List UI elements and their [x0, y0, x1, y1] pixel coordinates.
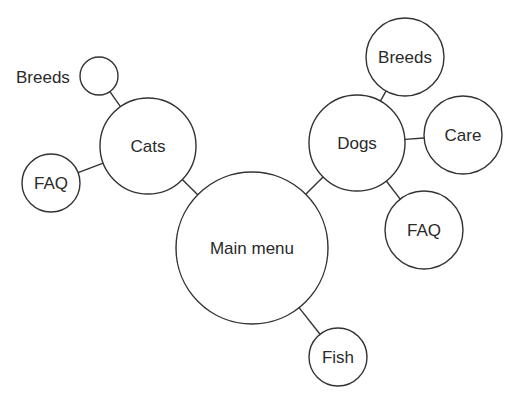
edge-main-dogs: [306, 177, 323, 194]
node-label-cats: Cats: [131, 137, 166, 156]
node-cats-breeds: [80, 57, 118, 95]
external-label-cats-breeds: Breeds: [16, 68, 70, 87]
node-label-main: Main menu: [210, 239, 294, 258]
node-label-dogs-breeds: Breeds: [378, 48, 432, 67]
site-map-diagram: Main menuCatsFAQDogsBreedsCareFAQFishBre…: [0, 0, 510, 400]
edge-cats-cats-faq: [78, 163, 103, 173]
node-label-fish: Fish: [322, 348, 354, 367]
edge-dogs-dogs-care: [405, 138, 424, 139]
node-label-dogs: Dogs: [337, 134, 377, 153]
edge-dogs-dogs-faq: [386, 181, 400, 199]
edge-main-fish: [299, 308, 320, 335]
node-label-dogs-faq: FAQ: [407, 221, 441, 240]
edge-cats-cats-breeds: [110, 92, 121, 107]
node-label-cats-faq: FAQ: [34, 174, 68, 193]
nodes: [22, 18, 502, 386]
edge-dogs-dogs-breeds: [380, 91, 386, 101]
node-label-dogs-care: Care: [445, 126, 482, 145]
edge-main-cats: [182, 180, 197, 195]
